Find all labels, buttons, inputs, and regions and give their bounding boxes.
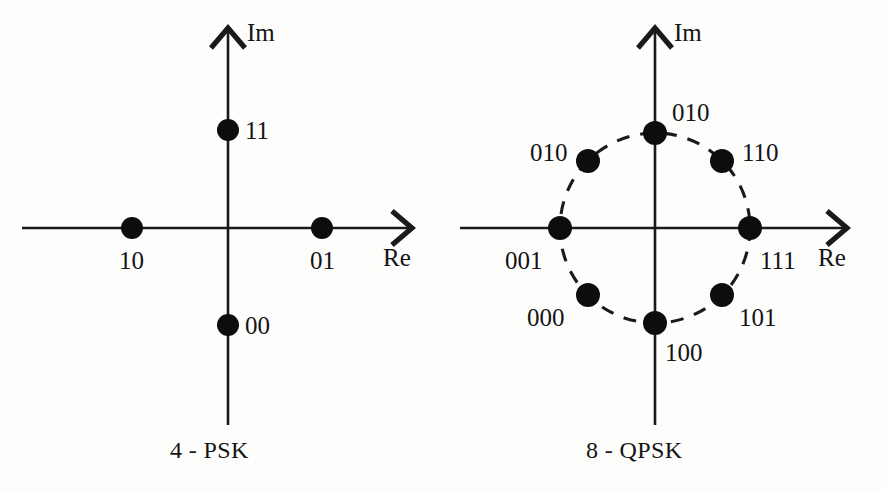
constellation-point-010: [576, 149, 600, 173]
constellation-point-100: [643, 311, 667, 335]
point-label-100: 100: [665, 340, 703, 365]
point-label-000: 000: [527, 305, 565, 330]
point-label-01: 01: [310, 248, 335, 273]
axis-label-im: Im: [674, 20, 702, 45]
panel-8qpsk: Re Im 8 - QPSK 010110111101100000001010: [443, 0, 886, 491]
point-label-110: 110: [742, 140, 779, 165]
point-label-10: 10: [119, 248, 144, 273]
axis-label-re: Re: [383, 245, 411, 270]
constellation-point-000: [576, 283, 600, 307]
constellation-point-01: [311, 217, 333, 239]
point-label-11: 11: [245, 118, 269, 143]
point-label-010: 010: [672, 100, 710, 125]
constellation-point-101: [710, 283, 734, 307]
plot-area-4psk: [0, 0, 443, 491]
point-label-010: 010: [530, 140, 568, 165]
constellation-point-11: [217, 119, 239, 141]
panel-caption-8qpsk: 8 - QPSK: [586, 438, 683, 462]
axis-label-re: Re: [818, 245, 846, 270]
constellation-figure: Re Im 4 - PSK 11010010 Re Im 8 - QPSK 01…: [0, 0, 886, 491]
constellation-point-111: [738, 216, 762, 240]
point-label-00: 00: [245, 313, 270, 338]
axis-label-im: Im: [247, 20, 275, 45]
constellation-point-00: [217, 314, 239, 336]
constellation-point-10: [121, 217, 143, 239]
constellation-point-001: [548, 216, 572, 240]
panel-caption-4psk: 4 - PSK: [170, 438, 249, 462]
panel-4psk: Re Im 4 - PSK 11010010: [0, 0, 443, 491]
constellation-point-010: [643, 121, 667, 145]
point-label-111: 111: [760, 248, 796, 273]
constellation-point-110: [710, 149, 734, 173]
point-label-001: 001: [505, 248, 543, 273]
point-label-101: 101: [739, 305, 777, 330]
